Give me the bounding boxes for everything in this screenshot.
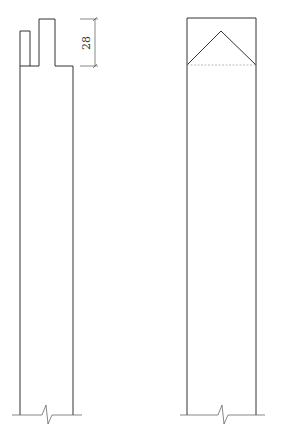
dimension-28: 28	[80, 17, 98, 68]
gable-top	[187, 31, 256, 65]
break-line	[12, 405, 82, 424]
side-view-outline	[20, 19, 73, 415]
front-view	[180, 18, 265, 424]
side-view: 28	[12, 17, 98, 424]
dimension-label: 28	[80, 36, 93, 50]
front-view-outline	[187, 18, 256, 415]
drawing-canvas: 28	[0, 0, 281, 438]
break-line	[180, 405, 265, 424]
